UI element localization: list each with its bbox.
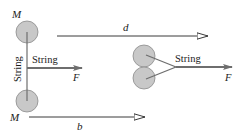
right-dumbbell: String F <box>133 45 232 89</box>
right-bottom-disk <box>133 67 155 89</box>
b-label: b <box>77 120 83 132</box>
dumbbell-diagram: M M String String F d b String F <box>0 0 243 137</box>
right-string-label: String <box>175 53 201 64</box>
left-force-label: F <box>72 72 80 83</box>
right-top-disk <box>133 45 155 67</box>
right-force-label: F <box>224 72 232 83</box>
displacement-d: d <box>57 21 208 36</box>
bottom-mass-label: M <box>9 111 20 123</box>
vertical-string-label: String <box>12 56 23 82</box>
left-dumbbell: M M String String F <box>9 8 82 123</box>
d-label: d <box>123 21 129 33</box>
top-mass-label: M <box>11 8 22 20</box>
displacement-b: b <box>29 117 145 132</box>
horizontal-string-label: String <box>32 54 58 65</box>
